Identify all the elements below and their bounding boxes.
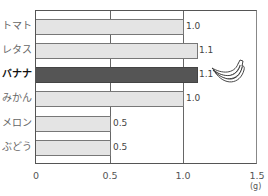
x-tick: 0.5 (102, 170, 117, 181)
bar-lettuce (36, 43, 198, 59)
category-label: みかん (2, 90, 32, 106)
bar-grape (36, 140, 111, 156)
value-label: 1.1 (199, 42, 213, 58)
value-label: 1.0 (186, 90, 200, 106)
value-label: 0.5 (113, 139, 127, 155)
x-axis-unit: (g) (250, 182, 261, 191)
category-label: ぶどう (2, 139, 32, 155)
category-label: レタス (2, 42, 32, 58)
bar-melon (36, 116, 111, 132)
category-label: トマト (2, 18, 32, 34)
value-label: 0.5 (113, 115, 127, 131)
x-tick: 1.0 (175, 170, 190, 181)
x-tick: 1.5 (249, 170, 264, 181)
banana-icon (210, 58, 246, 88)
category-label: メロン (2, 115, 32, 131)
bar-mikan (36, 91, 184, 107)
value-label: 1.0 (186, 18, 200, 34)
category-label-highlighted: バナナ (2, 66, 32, 82)
bar-tomato (36, 19, 184, 35)
bar-banana (36, 67, 198, 83)
x-tick: 0 (33, 170, 39, 181)
